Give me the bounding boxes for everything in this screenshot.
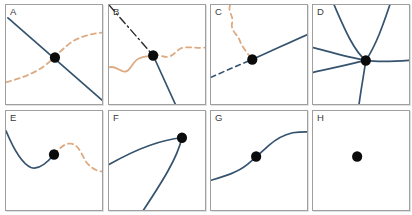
panel-h-plot [313, 111, 409, 210]
cusp-curve-blue [109, 138, 182, 210]
equilibrium-dot [148, 50, 158, 60]
solid-line-blue-upper-right [252, 35, 307, 60]
panel-b-label: B [113, 6, 119, 17]
panel-f: F [108, 110, 206, 211]
panel-d-label: D [317, 6, 324, 17]
curve-topleft-to-right-blue [334, 5, 409, 62]
multi-panel-figure: A B C D E F G H [0, 0, 412, 215]
panel-a: A [5, 4, 103, 105]
panel-a-label: A [10, 6, 16, 17]
curve-topright-to-left-blue [313, 5, 390, 60]
panel-g: G [210, 110, 308, 211]
wavy-solid-orange-left [109, 55, 153, 71]
panel-c-label: C [215, 6, 222, 17]
panel-f-label: F [113, 112, 119, 123]
equilibrium-dot [361, 55, 371, 65]
panel-g-plot [211, 111, 307, 210]
equilibrium-dot [352, 151, 362, 161]
panel-b-plot [109, 5, 205, 104]
equilibrium-dot [247, 54, 257, 64]
panel-e: E [5, 110, 103, 211]
panel-h: H [312, 110, 410, 211]
solid-line-blue-down [153, 55, 175, 104]
panel-e-label: E [10, 112, 16, 123]
wavy-dashed-orange-right [153, 47, 205, 57]
equilibrium-dot [177, 132, 187, 142]
valley-curve-blue [6, 131, 54, 168]
panel-c-plot [211, 5, 307, 104]
hump-curve-orange-dashed [54, 144, 102, 172]
wavy-dashed-orange-from-top [229, 5, 252, 59]
panel-g-label: G [215, 112, 222, 123]
equilibrium-dot [251, 151, 261, 161]
panel-e-plot [6, 111, 102, 210]
equilibrium-dot [50, 52, 60, 62]
panel-a-plot [6, 5, 102, 104]
panel-d: D [312, 4, 410, 105]
panel-h-label: H [317, 112, 324, 123]
equilibrium-dot [49, 149, 59, 159]
curve-left-to-bottom-blue [313, 60, 366, 104]
panel-c: C [210, 4, 308, 105]
panel-d-plot [313, 5, 409, 104]
dashed-line-blue-lower-left [211, 59, 252, 77]
panel-b: B [108, 4, 206, 105]
panel-f-plot [109, 111, 205, 210]
